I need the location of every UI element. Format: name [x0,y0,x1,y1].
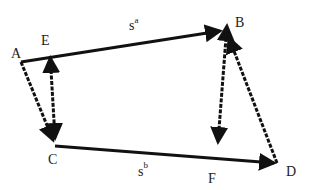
label-a: A [11,46,22,61]
label-f: F [208,171,216,186]
edge-d-b [229,38,277,163]
label-d: D [286,164,296,179]
edge-b-f-double [218,38,226,142]
edge-label-bottom: sb [138,160,148,179]
edge-a-c [21,62,53,140]
label-c: C [48,152,57,167]
label-b: B [235,15,244,30]
edge-e-double [51,70,55,138]
vector-diagram: A B C D E F sa sb [0,0,312,190]
edge-a-b [21,31,220,62]
label-e: E [41,33,50,48]
edge-c-d [55,146,274,163]
edge-label-top-sup: a [134,15,138,25]
edge-label-top: sa [129,15,138,33]
edge-label-bottom-sup: b [143,160,148,170]
